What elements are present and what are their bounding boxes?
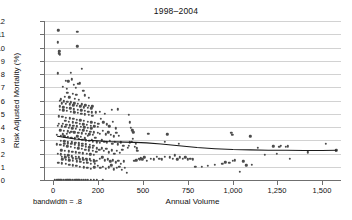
scatter-plot-figure: 1998–2004 0123456789101112 02005007501,0… — [0, 0, 352, 220]
lowess-fit-line — [0, 0, 352, 220]
